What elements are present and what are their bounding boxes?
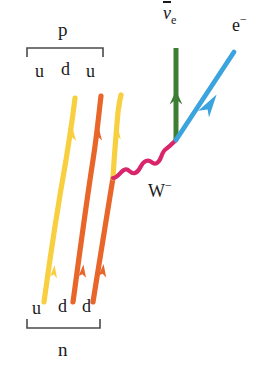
w-boson-charge: −: [165, 179, 172, 193]
w-boson-symbol: W: [148, 181, 165, 201]
neutron-bracket: [27, 319, 100, 328]
down-quark-right-segment: [93, 178, 113, 302]
neutron-quark-label-1: u: [32, 299, 41, 317]
proton-quark-label-2: d: [61, 60, 70, 78]
electron-label: e−: [232, 14, 247, 34]
electron-line: [176, 52, 234, 140]
w-boson-wavy-line: [113, 140, 176, 178]
proton-quark-label-3: u: [86, 62, 95, 80]
neutron-quark-label-3: d: [82, 297, 91, 315]
antineutrino-line: [170, 48, 183, 140]
antineutrino-symbol: ν: [163, 4, 171, 22]
diagram-canvas: [0, 0, 277, 375]
electron-charge: −: [240, 13, 247, 27]
proton-quark-label-1: u: [35, 62, 44, 80]
antineutrino-subscript: e: [171, 13, 176, 27]
antineutrino-label: νe: [163, 4, 176, 26]
feynman-diagram: p u d u u d d n W− νe e−: [0, 0, 277, 375]
proton-label: p: [58, 20, 68, 39]
electron-symbol: e: [232, 15, 240, 35]
w-boson-label: W−: [148, 180, 172, 200]
proton-bracket: [27, 48, 103, 57]
neutron-quark-label-2: d: [58, 297, 67, 315]
neutron-label: n: [58, 340, 68, 359]
up-quark-left-line: [44, 98, 76, 302]
